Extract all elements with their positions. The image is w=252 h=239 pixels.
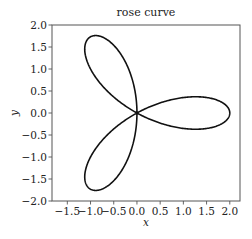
x-tick-label: −0.5 — [101, 205, 127, 217]
y-tick-label: 0.0 — [30, 107, 47, 119]
y-axis-label: y — [8, 109, 20, 117]
y-tick-label: 1.5 — [30, 41, 47, 53]
chart-title: rose curve — [117, 6, 176, 19]
chart-canvas: rose curve −1.5−1.0−0.50.00.51.01.52.0 −… — [0, 0, 252, 239]
x-tick-label: 1.5 — [198, 205, 215, 217]
axes-frame — [52, 25, 240, 201]
x-axis-label: x — [143, 216, 149, 228]
x-tick-label: 0.5 — [152, 205, 169, 217]
y-tick-label: 0.5 — [30, 85, 47, 97]
y-tick-label: 1.0 — [30, 63, 47, 75]
y-axis-ticks: −2.0−1.5−1.0−0.50.00.51.01.52.0 — [22, 19, 53, 207]
y-tick-label: −0.5 — [22, 129, 48, 141]
plot-area — [52, 25, 240, 201]
x-tick-label: −1.5 — [55, 205, 81, 217]
y-tick-label: −2.0 — [22, 195, 48, 207]
rose-curve-line — [85, 36, 230, 191]
x-tick-label: 2.0 — [221, 205, 238, 217]
y-tick-label: 2.0 — [30, 19, 47, 31]
x-axis-ticks: −1.5−1.0−0.50.00.51.01.52.0 — [55, 201, 239, 217]
x-tick-label: 1.0 — [175, 205, 192, 217]
x-tick-label: −1.0 — [78, 205, 104, 217]
y-tick-label: −1.5 — [22, 173, 48, 185]
y-tick-label: −1.0 — [22, 151, 48, 163]
